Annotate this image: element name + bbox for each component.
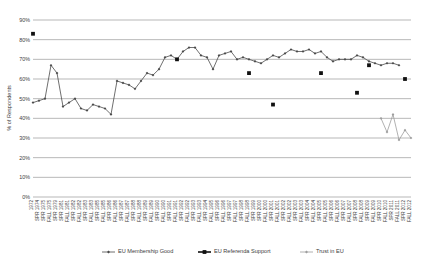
x-axis-tick-label: SPR 2000 bbox=[257, 200, 262, 221]
x-axis-tick-label: SPR 1993 bbox=[191, 200, 196, 221]
x-axis-tick-label: SPR 1981 bbox=[59, 200, 64, 221]
x-axis-tick-label: SPR 1982 bbox=[71, 200, 76, 221]
legend-label: EU Referenda Support bbox=[214, 248, 271, 254]
series-group bbox=[31, 32, 412, 141]
x-axis-tick-label: SPR 1997 bbox=[227, 200, 232, 221]
x-axis-tick-label: FALL 1985 bbox=[101, 200, 106, 222]
data-point-marker bbox=[98, 105, 101, 108]
x-axis-tick-label: SPR 1987 bbox=[119, 200, 124, 221]
data-point-marker bbox=[392, 113, 395, 116]
legend: EU Membership GoodEU Referenda SupportTr… bbox=[102, 248, 344, 254]
x-axis-tick-label: FALL 1995 bbox=[209, 200, 214, 222]
x-axis-tick-label: SPR 2001 bbox=[269, 200, 274, 221]
data-point-marker bbox=[247, 71, 251, 75]
legend-item-0[interactable]: EU Membership Good bbox=[102, 248, 173, 254]
x-axis-tick-label: FALL 2000 bbox=[263, 200, 268, 222]
x-axis-tick-label: FALL 1987 bbox=[125, 200, 130, 222]
x-axis-tick-label: FALL 1983 bbox=[89, 200, 94, 222]
data-point-marker bbox=[355, 91, 359, 95]
legend-item-1[interactable]: EU Referenda Support bbox=[198, 248, 271, 254]
legend-marker bbox=[203, 250, 207, 254]
legend-marker bbox=[107, 251, 110, 254]
series-1 bbox=[31, 32, 407, 107]
x-axis-tick-label: FALL 1982 bbox=[77, 200, 82, 222]
y-axis-tick-label: 50% bbox=[19, 96, 30, 102]
data-point-marker bbox=[398, 64, 401, 67]
chart-container: 0%10%20%30%40%50%60%70%80%90% 1972SPR 19… bbox=[0, 0, 422, 265]
x-axis-tick-label: FALL 2008 bbox=[359, 200, 364, 222]
x-axis-tick-label: SPR 2012 bbox=[401, 200, 406, 221]
line-chart: 0%10%20%30%40%50%60%70%80%90% 1972SPR 19… bbox=[0, 0, 422, 265]
x-axis-tick-label: SPR 1998 bbox=[239, 200, 244, 221]
y-axis-tick-labels: 0%10%20%30%40%50%60%70%80%90% bbox=[19, 17, 30, 200]
data-point-marker bbox=[386, 131, 389, 134]
legend-label: EU Membership Good bbox=[118, 248, 173, 254]
y-axis-title: % of Respondents bbox=[6, 85, 12, 131]
data-point-marker bbox=[271, 103, 275, 107]
data-point-marker bbox=[386, 62, 389, 65]
data-point-marker bbox=[374, 62, 377, 65]
x-axis-tick-label: SPR 2011 bbox=[389, 200, 394, 221]
x-axis-tick-label: FALL 2004 bbox=[311, 200, 316, 222]
data-point-marker bbox=[403, 77, 407, 81]
x-axis-tick-label: FALL 1991 bbox=[173, 200, 178, 222]
series-line bbox=[33, 48, 399, 115]
data-point-marker bbox=[206, 56, 209, 59]
x-axis-tick-label: FALL 2010 bbox=[383, 200, 388, 222]
x-axis-tick-label: SPR 2008 bbox=[353, 200, 358, 221]
x-axis-tick-label: SPR 2003 bbox=[293, 200, 298, 221]
x-axis-tick-label: SPR 2004 bbox=[305, 200, 310, 221]
data-point-marker bbox=[175, 57, 179, 61]
data-point-marker bbox=[122, 82, 125, 85]
data-point-marker bbox=[116, 80, 119, 83]
series-0 bbox=[32, 46, 401, 116]
data-point-marker bbox=[254, 60, 257, 63]
x-axis-tick-label: FALL 2009 bbox=[371, 200, 376, 222]
legend-item-2[interactable]: Trust in EU bbox=[300, 248, 344, 254]
x-axis-tick-label: FALL 1986 bbox=[113, 200, 118, 222]
x-axis-tick-label: SPR 1975 bbox=[41, 200, 46, 221]
data-point-marker bbox=[344, 58, 347, 61]
y-axis-tick-label: 80% bbox=[19, 37, 30, 43]
data-point-marker bbox=[224, 52, 227, 55]
data-point-marker bbox=[392, 62, 395, 65]
x-axis-tick-label: SPR 1989 bbox=[143, 200, 148, 221]
data-point-marker bbox=[302, 50, 305, 53]
y-axis-tick-label: 30% bbox=[19, 135, 30, 141]
data-point-marker bbox=[44, 97, 47, 100]
x-axis-tick-label: SPR 1991 bbox=[167, 200, 172, 221]
y-axis-tick-label: 10% bbox=[19, 174, 30, 180]
legend-label: Trust in EU bbox=[316, 248, 344, 254]
x-axis-tick-label: 1972 bbox=[29, 200, 34, 211]
x-axis-tick-label: SPR 1988 bbox=[131, 200, 136, 221]
x-axis-tick-label: FALL 1997 bbox=[233, 200, 238, 222]
x-axis-tick-label: FALL 2007 bbox=[347, 200, 352, 222]
x-axis-tick-label: FALL 2011 bbox=[395, 200, 400, 222]
x-axis-tick-label: SPR 2006 bbox=[329, 200, 334, 221]
data-point-marker bbox=[32, 101, 35, 104]
data-point-marker bbox=[319, 71, 323, 75]
y-axis-tick-label: 20% bbox=[19, 155, 30, 161]
x-axis-tick-label: FALL 2001 bbox=[275, 200, 280, 222]
x-axis-tick-label: SPR 1994 bbox=[203, 200, 208, 221]
x-axis-tick-label: FALL 2002 bbox=[287, 200, 292, 222]
x-axis-tick-label: FALL 1989 bbox=[149, 200, 154, 222]
y-axis-tick-label: 40% bbox=[19, 115, 30, 121]
gridlines-group bbox=[33, 20, 411, 197]
x-axis-tick-label: FALL 1992 bbox=[185, 200, 190, 222]
x-axis-tick-label: SPR 2007 bbox=[341, 200, 346, 221]
x-axis-tick-label: SPR 1985 bbox=[95, 200, 100, 221]
data-point-marker bbox=[296, 50, 299, 53]
x-axis-tick-label: FALL 2012 bbox=[407, 200, 412, 222]
x-axis-tick-label: FALL 2006 bbox=[335, 200, 340, 222]
x-axis-tick-label: SPR 2005 bbox=[317, 200, 322, 221]
data-point-marker bbox=[212, 68, 215, 71]
y-axis-tick-label: 0% bbox=[22, 194, 30, 200]
x-axis-tick-label: FALL 2005 bbox=[323, 200, 328, 222]
data-point-marker bbox=[164, 56, 167, 59]
data-point-marker bbox=[218, 54, 221, 57]
x-axis-tick-label: SPR 1983 bbox=[83, 200, 88, 221]
x-axis-tick-label: SPR 2002 bbox=[281, 200, 286, 221]
x-axis-tick-label: SPR 1986 bbox=[107, 200, 112, 221]
x-axis-tick-label: FALL 1993 bbox=[197, 200, 202, 222]
